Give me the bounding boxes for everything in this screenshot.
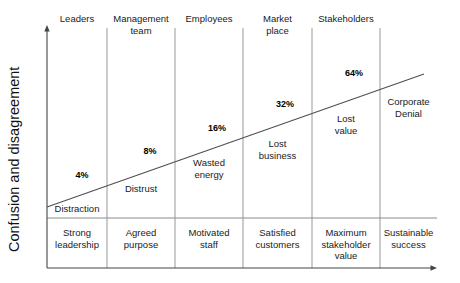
percent-label-8: 8% — [136, 146, 164, 156]
percent-label-4: 4% — [68, 170, 96, 180]
percent-label-64: 64% — [338, 68, 370, 78]
percent-label-32: 32% — [269, 99, 301, 109]
upper-cell-lost-business: Lost business — [243, 138, 312, 161]
y-axis-arrow-icon — [44, 25, 49, 32]
upper-cell-distraction: Distraction — [47, 203, 107, 215]
upper-cell-lost-value: Lost value — [312, 113, 380, 136]
upper-cell-distrust: Distrust — [107, 183, 175, 195]
upper-cell-wasted-energy: Wasted energy — [175, 157, 243, 180]
percent-label-16: 16% — [201, 123, 233, 133]
lower-cell-motivated-staff: Motivated staff — [175, 227, 243, 250]
column-header-stakeholders: Stakeholders — [312, 13, 380, 25]
trend-line — [47, 74, 424, 207]
column-header-management-team: Management team — [107, 13, 175, 36]
lower-cell-maximum-stakeholder-value: Maximum stakeholder value — [312, 227, 380, 262]
lower-cell-strong-leadership: Strong leadership — [47, 227, 107, 250]
lower-cell-agreed-purpose: Agreed purpose — [107, 227, 175, 250]
column-header-employees: Employees — [175, 13, 243, 25]
y-axis-label: Confusion and disagreement — [6, 52, 22, 252]
lower-cell-sustainable-success: Sustainable success — [380, 227, 437, 250]
x-axis-arrow-icon — [431, 265, 438, 270]
upper-cell-corporate-denial: Corporate Denial — [380, 96, 437, 119]
column-header-market-place: Market place — [243, 13, 312, 36]
diagram-canvas: Leaders Management team Employees Market… — [0, 0, 460, 283]
column-header-leaders: Leaders — [47, 13, 107, 25]
lower-cell-satisfied-customers: Satisfied customers — [243, 227, 312, 250]
